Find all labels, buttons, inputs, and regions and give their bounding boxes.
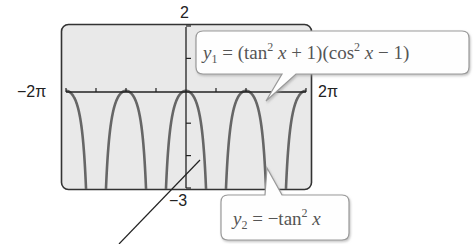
equation-y1: y1 = (tan2 x + 1)(cos2 x − 1) (203, 41, 409, 65)
y-min-label: −3 (169, 193, 187, 209)
y-max-label: 2 (180, 5, 189, 21)
figure: 2 −3 −2π 2π y1 = (tan2 x + 1)(cos2 x − 1… (0, 0, 473, 244)
x-min-label: −2π (17, 84, 46, 100)
equation-y2: y2 = −tan2 x (233, 207, 321, 231)
x-max-label: 2π (318, 84, 338, 100)
